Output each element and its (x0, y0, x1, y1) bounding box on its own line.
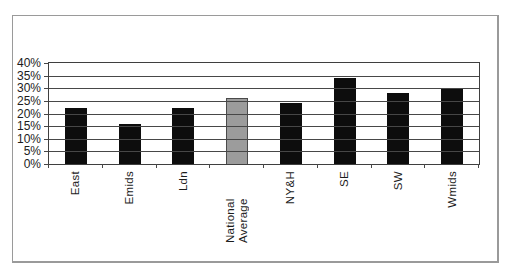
x-label-slot-emids: Emids (103, 171, 157, 245)
gridline-25 (49, 101, 479, 102)
y-axis-tick (44, 139, 48, 140)
x-axis-tick (263, 164, 264, 168)
bar-sw (387, 93, 409, 164)
x-label-slot-ldn: Ldn (157, 171, 211, 245)
y-tick-label-25: 25% (1, 94, 41, 108)
gridline-20 (49, 114, 479, 115)
bar-ldn (172, 108, 194, 164)
bar-east (65, 108, 87, 164)
x-axis-label-se: SE (338, 171, 351, 187)
x-axis-tick (424, 164, 425, 168)
x-label-slot-sw: SW (372, 171, 426, 245)
scanned-page: EastEmidsLdnNational AverageNY&HSESWWmid… (0, 0, 513, 276)
x-axis-label-east: East (69, 171, 82, 195)
y-axis-tick (44, 101, 48, 102)
gridline-35 (49, 76, 479, 77)
x-axis-label-emids: Emids (123, 171, 136, 204)
x-axis-tick (48, 164, 49, 168)
y-tick-label-0: 0% (1, 157, 41, 171)
x-label-slot-east: East (49, 171, 103, 245)
x-axis-label-ldn: Ldn (177, 171, 190, 191)
y-tick-label-10: 10% (1, 132, 41, 146)
y-tick-label-30: 30% (1, 81, 41, 95)
x-axis-tick (102, 164, 103, 168)
x-label-slot-ny-h: NY&H (264, 171, 318, 245)
bar-ny-h (280, 103, 302, 164)
y-tick-label-40: 40% (1, 56, 41, 70)
x-axis-labels: EastEmidsLdnNational AverageNY&HSESWWmid… (49, 171, 479, 245)
y-tick-label-20: 20% (1, 107, 41, 121)
gridline-10 (49, 139, 479, 140)
bar-emids (119, 124, 141, 164)
x-axis-tick (478, 164, 479, 168)
x-axis-tick (156, 164, 157, 168)
x-axis-tick (317, 164, 318, 168)
chart-frame: EastEmidsLdnNational AverageNY&HSESWWmid… (12, 15, 499, 263)
y-axis-tick (44, 126, 48, 127)
x-axis-label-sw: SW (392, 171, 405, 190)
gridline-30 (49, 88, 479, 89)
y-axis-tick (44, 151, 48, 152)
plot-area: EastEmidsLdnNational AverageNY&HSESWWmid… (48, 62, 480, 165)
gridline-5 (49, 151, 479, 152)
x-label-slot-wmids: Wmids (425, 171, 479, 245)
gridline-15 (49, 126, 479, 127)
x-axis-label-wmids: Wmids (446, 171, 459, 208)
x-label-slot-national-average: National Average (210, 171, 264, 245)
x-axis-label-national-average: National Average (224, 171, 250, 243)
y-axis-tick (44, 114, 48, 115)
x-axis-tick (209, 164, 210, 168)
y-tick-label-5: 5% (1, 144, 41, 158)
y-axis-tick (44, 76, 48, 77)
y-tick-label-15: 15% (1, 119, 41, 133)
y-axis-tick (44, 88, 48, 89)
x-axis-label-ny-h: NY&H (284, 171, 297, 204)
x-axis-tick (371, 164, 372, 168)
y-axis-tick (44, 63, 48, 64)
y-tick-label-35: 35% (1, 69, 41, 83)
x-label-slot-se: SE (318, 171, 372, 245)
bar-national-average (226, 98, 248, 164)
